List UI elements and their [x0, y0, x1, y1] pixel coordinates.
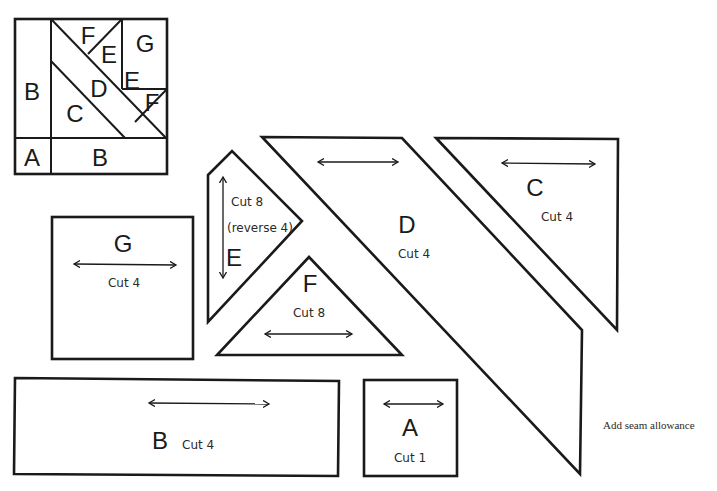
- template-f-cut: Cut 8: [293, 306, 325, 320]
- template-a-letter: A: [402, 414, 418, 441]
- template-g-letter: G: [114, 230, 133, 257]
- template-g-cut: Cut 4: [108, 276, 140, 290]
- block-label-c: C: [66, 100, 83, 127]
- template-b: B Cut 4: [14, 378, 339, 476]
- template-d-cut: Cut 4: [398, 247, 430, 261]
- block-diagram: B A B C D F E G E F: [15, 19, 167, 174]
- template-c-cut: Cut 4: [541, 210, 573, 224]
- template-e-cut: Cut 8: [231, 195, 263, 209]
- seam-allowance-note: Add seam allowance: [603, 419, 695, 431]
- block-label-b-left: B: [24, 78, 40, 105]
- template-b-cut: Cut 4: [182, 438, 214, 452]
- block-label-d: D: [90, 75, 107, 102]
- block-label-e-right: E: [124, 67, 140, 94]
- template-c-letter: C: [526, 174, 543, 201]
- template-d-letter: D: [398, 211, 415, 238]
- quilt-pattern-sheet: B A B C D F E G E F G Cut 4 Cut 8 (rever…: [0, 0, 717, 491]
- template-g: G Cut 4: [52, 217, 193, 359]
- template-f-letter: F: [303, 270, 318, 297]
- block-label-f-top: F: [81, 22, 96, 49]
- block-label-a: A: [24, 144, 40, 171]
- template-a-cut: Cut 1: [394, 451, 426, 465]
- template-b-letter: B: [152, 427, 168, 454]
- block-label-g: G: [136, 30, 155, 57]
- block-label-e-top: E: [101, 41, 117, 68]
- template-e-letter: E: [226, 244, 242, 271]
- block-label-f-right: F: [145, 89, 160, 116]
- template-a: A Cut 1: [364, 380, 457, 476]
- template-e-note: (reverse 4): [227, 221, 293, 235]
- block-label-b-bottom: B: [92, 144, 108, 171]
